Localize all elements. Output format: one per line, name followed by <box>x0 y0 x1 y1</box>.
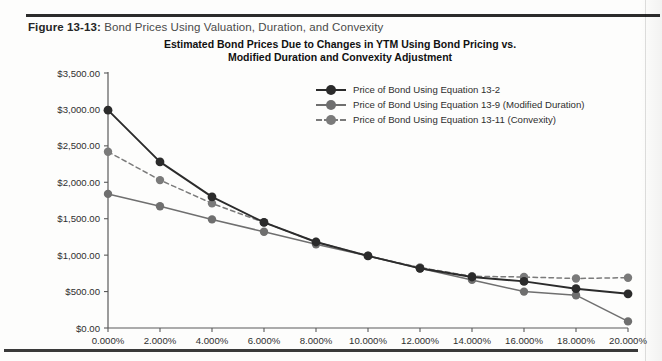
x-axis-tick-label: 12.000% <box>401 335 439 346</box>
x-axis-tick-label: 0.000% <box>92 335 125 346</box>
x-axis-tick-label: 18.000% <box>557 335 595 346</box>
data-point-marker <box>104 190 112 198</box>
data-point-marker <box>572 274 580 282</box>
data-point-marker <box>520 287 528 295</box>
legend-marker-dot <box>326 85 336 95</box>
y-axis-tick-label: $0.00 <box>76 323 100 334</box>
x-axis-tick-label: 6.000% <box>248 335 281 346</box>
x-axis-tick-label: 16.000% <box>505 335 543 346</box>
legend-item-label: Price of Bond Using Equation 13-2 <box>353 84 500 95</box>
x-axis-tick-label: 10.000% <box>349 335 387 346</box>
data-point-marker <box>156 158 165 167</box>
data-point-marker <box>260 218 269 227</box>
series-line <box>108 110 628 294</box>
chart-plot-area: $0.00$500.00$1,000.00$1,500.00$2,000.00$… <box>0 0 662 361</box>
y-axis-tick-label: $3,500.00 <box>57 68 100 79</box>
book-page: Figure 13-13: Bond Prices Using Valuatio… <box>0 0 662 361</box>
data-point-marker <box>520 277 529 286</box>
data-point-marker <box>156 176 164 184</box>
legend-item: Price of Bond Using Equation 13-2 <box>316 82 584 97</box>
series-3 <box>104 148 632 283</box>
y-axis-tick-label: $500.00 <box>65 286 100 297</box>
chart-legend: Price of Bond Using Equation 13-2 Price … <box>316 82 584 127</box>
legend-key-equation-13-2 <box>316 84 346 96</box>
legend-item-label: Price of Bond Using Equation 13-11 (Conv… <box>353 114 556 125</box>
data-point-marker <box>260 228 268 236</box>
legend-item-label: Price of Bond Using Equation 13-9 (Modif… <box>353 99 584 110</box>
data-point-marker <box>468 273 477 282</box>
page-edge-line <box>645 0 646 361</box>
y-axis-tick-label: $2,000.00 <box>57 177 100 188</box>
data-point-marker <box>624 289 633 298</box>
data-point-marker <box>364 252 373 261</box>
data-point-marker <box>624 274 632 282</box>
y-axis-tick-label: $3,000.00 <box>57 104 100 115</box>
legend-key-equation-13-9 <box>316 99 346 111</box>
data-point-marker <box>104 148 112 156</box>
data-point-marker <box>156 202 164 210</box>
legend-item: Price of Bond Using Equation 13-9 (Modif… <box>316 97 584 112</box>
x-axis-tick-label: 8.000% <box>300 335 333 346</box>
x-axis-tick-label: 4.000% <box>196 335 229 346</box>
data-point-marker <box>104 106 113 115</box>
legend-marker-dot <box>326 100 336 110</box>
legend-key-equation-13-11 <box>316 114 346 126</box>
legend-item: Price of Bond Using Equation 13-11 (Conv… <box>316 112 584 127</box>
y-axis-tick-label: $1,000.00 <box>57 250 100 261</box>
y-axis-tick-label: $1,500.00 <box>57 213 100 224</box>
y-axis-tick-label: $2,500.00 <box>57 140 100 151</box>
x-axis-tick-label: 2.000% <box>144 335 177 346</box>
series-1 <box>104 106 633 298</box>
x-axis-tick-label: 14.000% <box>453 335 491 346</box>
data-point-marker <box>208 215 216 223</box>
page-edge-shadow <box>640 0 662 361</box>
data-point-marker <box>312 238 321 247</box>
legend-marker-dot <box>326 115 336 125</box>
data-point-marker <box>572 284 581 293</box>
data-point-marker <box>208 193 217 202</box>
line-chart: $0.00$500.00$1,000.00$1,500.00$2,000.00$… <box>0 0 662 361</box>
data-point-marker <box>624 317 632 325</box>
data-point-marker <box>416 264 425 273</box>
